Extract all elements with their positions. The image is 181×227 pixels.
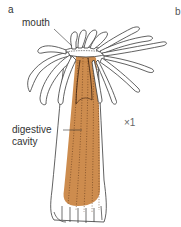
- panel-letter-a: a: [8, 4, 14, 15]
- scale-label: ×1: [124, 117, 135, 128]
- mouth-leader-line: [54, 29, 72, 46]
- label-mouth: mouth: [22, 17, 50, 28]
- label-digestive-cavity: digestive cavity: [12, 124, 51, 148]
- label-digestive-line2: cavity: [12, 136, 38, 147]
- panel-letter-b: b: [175, 6, 181, 17]
- sea-anemone-drawing: [0, 0, 181, 227]
- label-digestive-line1: digestive: [12, 124, 51, 135]
